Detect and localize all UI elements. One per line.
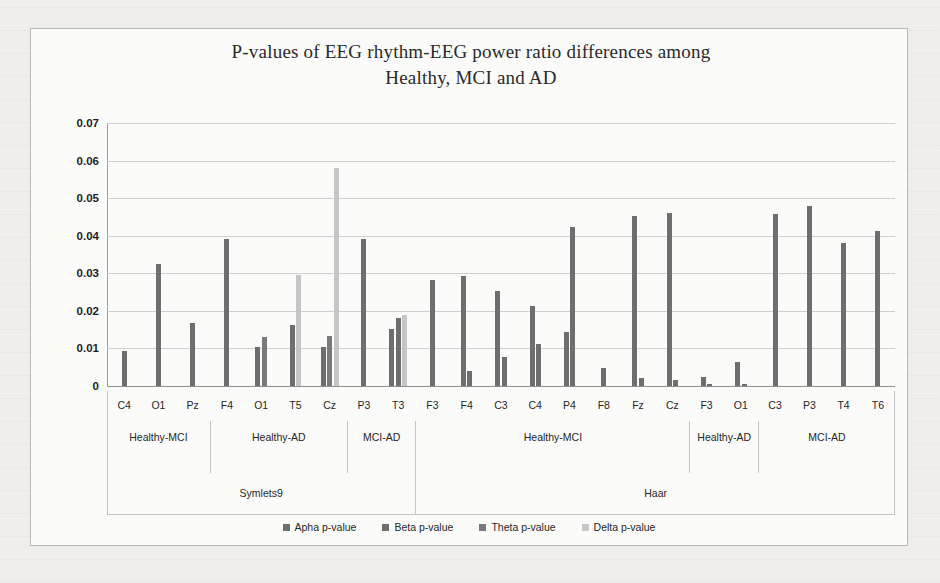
bar [601,368,606,386]
category-label: T4 [837,399,849,411]
y-axis-tick-label: 0.02 [77,305,99,317]
category-label: F4 [461,399,473,411]
category-label: F8 [598,399,610,411]
legend-swatch-icon [283,524,290,531]
y-axis-tick-label: 0.03 [77,267,99,279]
comparison-group-label: MCI-AD [347,421,416,473]
bar [639,378,644,386]
category-label: O1 [151,399,165,411]
bar [807,206,812,386]
legend-item[interactable]: Theta p-value [479,521,555,533]
chart-title-line-2: Healthy, MCI and AD [91,65,851,91]
gridline [107,161,895,162]
comparison-group-label: Healthy-MCI [415,421,689,473]
bar [396,318,401,386]
legend-label: Theta p-value [491,521,555,533]
legend-label: Delta p-value [594,521,656,533]
legend-label: Beta p-value [394,521,453,533]
bar [461,276,466,386]
category-label: P3 [803,399,816,411]
chart-legend: Apha p-valueBeta p-valueTheta p-valueDel… [31,521,907,533]
category-label: F4 [221,399,233,411]
bar [773,214,778,386]
wavelet-group-row: Symlets9Haar [107,473,895,515]
comparison-group-label: Healthy-AD [689,421,758,473]
x-axis-line [107,386,895,387]
chart-container: P-values of EEG rhythm-EEG power ratio d… [30,28,908,546]
category-label: F3 [700,399,712,411]
category-label: P3 [358,399,371,411]
plot-area: 0.070.060.050.040.030.020.010 [107,123,895,386]
gridline [107,198,895,199]
bar [875,231,880,386]
legend-item[interactable]: Delta p-value [582,521,656,533]
legend-swatch-icon [382,524,389,531]
y-axis-tick-label: 0.06 [77,155,99,167]
category-tick-labels: C4O1PzF4O1T5CzP3T3F3F4C3C4P4F8FzCzF3O1C3… [107,391,895,421]
gridline [107,123,895,124]
legend-swatch-icon [582,524,589,531]
bar [667,213,672,386]
y-axis-tick-label: 0 [93,380,99,392]
bar [467,371,472,386]
category-label: C3 [768,399,781,411]
bar [707,384,712,386]
bar [122,351,127,386]
category-label: C4 [529,399,542,411]
bar [255,347,260,386]
category-label: Cz [323,399,336,411]
legend-swatch-icon [479,524,486,531]
category-label: P4 [563,399,576,411]
legend-item[interactable]: Apha p-value [283,521,357,533]
category-label: O1 [254,399,268,411]
wavelet-group-label: Haar [415,473,895,515]
bar [536,344,541,386]
y-axis-tick-label: 0.01 [77,342,99,354]
y-axis-line [107,123,108,386]
comparison-group-label: MCI-AD [758,421,895,473]
bar [502,357,507,386]
comparison-group-row: Healthy-MCIHealthy-ADMCI-ADHealthy-MCIHe… [107,421,895,473]
bar [841,243,846,386]
legend-item[interactable]: Beta p-value [382,521,453,533]
y-axis-tick-label: 0.07 [77,117,99,129]
bar [334,168,339,386]
category-label: F3 [426,399,438,411]
comparison-group-label: Healthy-MCI [107,421,210,473]
bar [495,291,500,386]
category-label: T3 [392,399,404,411]
bar [701,377,706,386]
category-label: C3 [494,399,507,411]
category-label: T6 [872,399,884,411]
bar [735,362,740,386]
bar [632,216,637,386]
category-label: O1 [734,399,748,411]
category-label: T5 [289,399,301,411]
y-axis-tick-label: 0.04 [77,230,99,242]
bar [190,323,195,386]
bar [570,227,575,386]
wavelet-group-label: Symlets9 [107,473,415,515]
bar [296,275,301,386]
category-label: Pz [187,399,199,411]
bar [224,239,229,386]
comparison-group-label: Healthy-AD [210,421,347,473]
chart-title-line-1: P-values of EEG rhythm-EEG power ratio d… [91,39,851,65]
chart-title: P-values of EEG rhythm-EEG power ratio d… [91,39,851,91]
category-label: Cz [666,399,679,411]
bar [530,306,535,386]
bar [321,347,326,386]
bar [389,329,394,386]
bar [290,325,295,386]
bar [564,332,569,386]
bar [361,239,366,386]
bar [430,280,435,386]
bar [742,384,747,386]
legend-label: Apha p-value [295,521,357,533]
category-label: C4 [117,399,130,411]
category-label: Fz [632,399,644,411]
bar [156,264,161,386]
bar [327,336,332,386]
y-axis-tick-label: 0.05 [77,192,99,204]
bar [673,380,678,386]
